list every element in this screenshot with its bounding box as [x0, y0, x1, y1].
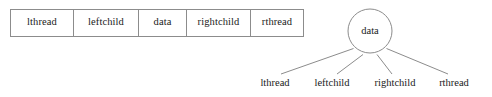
leaf-label-lthread: lthread: [249, 78, 301, 89]
record-cell-lthread: lthread: [11, 10, 74, 36]
leaf-label-leftchild: leftchild: [304, 78, 360, 89]
edge-line-lthread: [281, 49, 354, 75]
leaf-label-rthread: rthread: [428, 78, 480, 89]
record-cell-rthread: rthread: [251, 10, 303, 36]
edge-line-rightchild: [377, 55, 392, 75]
record-cell-label: rthread: [262, 17, 292, 28]
leaf-label-rightchild: rightchild: [365, 78, 425, 89]
edge-line-rthread: [387, 49, 449, 75]
edge-line-leftchild: [337, 55, 363, 75]
node-record-table: lthread leftchild data rightchild rthrea…: [10, 9, 304, 37]
record-cell-label: data: [154, 17, 172, 28]
node-structure-figure: lthread leftchild data rightchild rthrea…: [0, 0, 492, 97]
record-cell-label: lthread: [27, 17, 57, 28]
record-cell-data: data: [139, 10, 187, 36]
record-cell-rightchild: rightchild: [187, 10, 251, 36]
record-cell-label: leftchild: [88, 17, 124, 28]
record-cell-leftchild: leftchild: [74, 10, 139, 36]
record-cell-label: rightchild: [198, 17, 240, 28]
node-circle-label: data: [348, 26, 392, 37]
